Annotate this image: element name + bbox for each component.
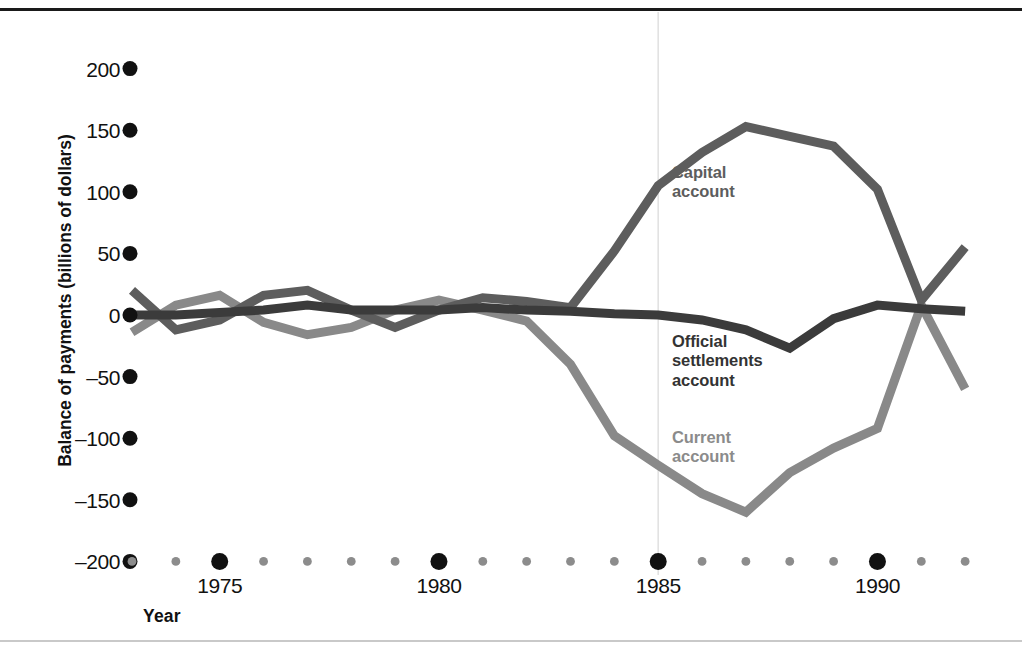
x-tick-marker-minor xyxy=(347,557,356,566)
chart-figure: Balance of payments (billions of dollars… xyxy=(0,0,1022,645)
x-tick-label: 1985 xyxy=(608,575,708,596)
x-tick-label: 1975 xyxy=(170,575,270,596)
x-tick-label: 1980 xyxy=(389,575,489,596)
y-tick-marker xyxy=(123,431,138,446)
y-axis-title: Balance of payments (billions of dollars… xyxy=(55,86,76,516)
y-tick-label: –50 xyxy=(20,367,120,388)
y-tick-label: –200 xyxy=(20,551,120,572)
x-tick-marker-minor xyxy=(829,557,838,566)
x-tick-marker-minor xyxy=(566,557,575,566)
y-tick-marker xyxy=(123,61,138,76)
y-tick-label: 0 xyxy=(20,305,120,326)
x-tick-marker-minor xyxy=(171,557,180,566)
y-tick-label: –150 xyxy=(20,490,120,511)
x-tick-marker-minor xyxy=(522,557,531,566)
x-tick-marker-minor xyxy=(785,557,794,566)
series-line-capital-account xyxy=(132,127,965,330)
series-line-current-account xyxy=(132,295,965,512)
x-tick-marker-major xyxy=(869,553,886,570)
x-tick-marker-major xyxy=(211,553,228,570)
x-tick-marker-minor xyxy=(961,557,970,566)
series-label-capital-account: Capital account xyxy=(672,163,735,202)
x-axis-title: Year xyxy=(143,606,181,627)
y-tick-marker xyxy=(123,492,138,507)
x-tick-marker-minor xyxy=(478,557,487,566)
y-tick-marker xyxy=(123,123,138,138)
y-tick-label: –100 xyxy=(20,428,120,449)
plot-area xyxy=(0,0,1022,645)
x-tick-label: 1990 xyxy=(827,575,927,596)
x-tick-marker-minor xyxy=(698,557,707,566)
y-tick-label: 200 xyxy=(20,59,120,80)
x-tick-marker-minor xyxy=(391,557,400,566)
y-tick-label: 150 xyxy=(20,120,120,141)
series-label-current-account: Current account xyxy=(672,428,735,467)
y-tick-label: 50 xyxy=(20,243,120,264)
x-tick-marker-minor xyxy=(610,557,619,566)
series-label-official-settlements-account: Official settlements account xyxy=(672,332,763,390)
x-tick-marker-minor xyxy=(128,557,137,566)
x-tick-marker-minor xyxy=(303,557,312,566)
y-tick-marker xyxy=(123,184,138,199)
y-tick-marker xyxy=(123,246,138,261)
x-tick-marker-major xyxy=(430,553,447,570)
x-tick-marker-major xyxy=(650,553,667,570)
y-tick-marker xyxy=(123,308,138,323)
y-tick-marker xyxy=(123,369,138,384)
x-tick-marker-minor xyxy=(742,557,751,566)
x-tick-marker-minor xyxy=(917,557,926,566)
x-tick-marker-minor xyxy=(259,557,268,566)
bottom-divider-rule xyxy=(0,640,1022,642)
y-tick-label: 100 xyxy=(20,182,120,203)
